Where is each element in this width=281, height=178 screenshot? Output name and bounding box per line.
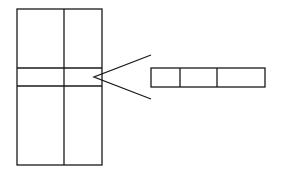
source-table-outline [17, 9, 102, 165]
target-record [151, 68, 265, 87]
target-record-outline [151, 68, 265, 87]
source-table [17, 9, 102, 165]
diagram-canvas [0, 0, 281, 178]
